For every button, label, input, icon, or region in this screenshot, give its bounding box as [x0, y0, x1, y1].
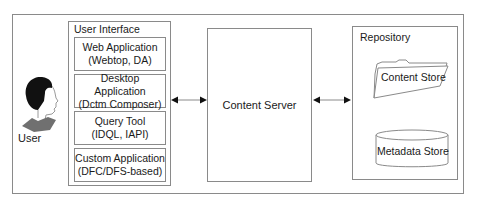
app-detail: (Dctm Composer) [79, 98, 162, 111]
repository-title: Repository [360, 31, 410, 43]
app-name: Desktop Application [75, 72, 165, 98]
content-store-label: Content Store [381, 71, 446, 83]
bidirectional-arrow-icon [312, 95, 352, 105]
metadata-store-label: Metadata Store [377, 145, 449, 157]
app-name: Custom Application [75, 152, 165, 165]
content-server-label: Content Server [223, 99, 297, 111]
custom-application-box: Custom Application (DFC/DFS-based) [74, 148, 166, 182]
user-profile-icon [18, 74, 62, 132]
user-interface-group: User Interface Web Application (Webtop, … [68, 21, 171, 186]
desktop-application-box: Desktop Application (Dctm Composer) [74, 74, 166, 108]
app-detail: (DFC/DFS-based) [78, 165, 163, 178]
app-detail: (IDQL, IAPI) [91, 128, 148, 141]
content-server-box: Content Server [207, 28, 312, 182]
app-name: Query Tool [95, 115, 146, 128]
bidirectional-arrow-icon [170, 95, 208, 105]
user-interface-title: User Interface [74, 23, 140, 35]
app-detail: (Webtop, DA) [88, 54, 151, 67]
user-label: User [18, 132, 41, 144]
web-application-box: Web Application (Webtop, DA) [74, 37, 166, 71]
query-tool-box: Query Tool (IDQL, IAPI) [74, 111, 166, 145]
app-name: Web Application [82, 41, 157, 54]
